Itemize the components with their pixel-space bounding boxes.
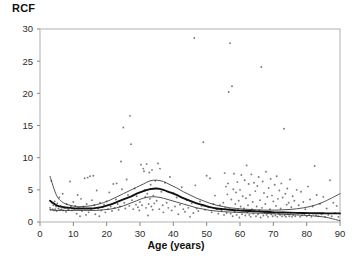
data-point [151,169,153,171]
data-point [147,215,149,217]
data-point [131,199,133,201]
data-point [248,214,250,216]
data-point [62,193,64,195]
data-point [234,203,236,205]
y-tick-label: 0 [28,216,33,227]
data-point [290,206,292,208]
data-point [247,204,249,206]
data-point [274,215,276,217]
data-point [194,184,196,186]
data-point [322,196,324,198]
data-point [132,208,134,210]
data-point [253,182,255,184]
data-point [87,177,89,179]
data-point [271,195,273,197]
data-point [310,216,312,218]
x-axis-label: Age (years) [0,239,352,251]
data-point [291,216,293,218]
data-point [314,165,316,167]
data-point [146,163,148,165]
data-point [214,195,216,197]
data-point [230,213,232,215]
data-point [193,37,195,39]
data-point [135,204,137,206]
data-point [266,196,268,198]
data-point [235,191,237,193]
data-point [86,203,88,205]
data-point [184,211,186,213]
data-point [209,177,211,179]
data-point [262,215,264,217]
data-point [262,181,264,183]
x-tick-label: 40 [168,228,179,239]
data-point [159,168,161,170]
data-point [148,203,150,205]
data-point [142,168,144,170]
data-point [254,190,256,192]
data-point [261,207,263,209]
plot-frame [40,29,340,222]
y-tick-label: 5 [28,184,33,195]
data-point [91,199,93,201]
data-point [248,183,250,185]
data-point [137,206,139,208]
data-point [77,194,79,196]
data-point [270,178,272,180]
data-point [85,214,87,216]
data-point [121,188,123,190]
data-point [285,216,287,218]
y-tick-label: 15 [22,120,33,131]
data-point [166,202,168,204]
data-point [246,164,248,166]
data-point [278,190,280,192]
data-point [256,185,258,187]
data-point [286,204,288,206]
y-tick-label: 20 [22,88,33,99]
data-point [187,207,189,209]
data-point [117,203,119,205]
data-point [241,213,243,215]
data-point [263,192,265,194]
data-point [229,42,231,44]
data-point [283,128,285,130]
data-point [275,205,277,207]
upper-band-curve [50,176,340,210]
data-point [112,183,114,185]
data-point [326,208,328,210]
data-point [206,175,208,177]
data-point [197,210,199,212]
data-point [286,188,288,190]
data-point [49,207,51,209]
data-point [158,208,160,210]
data-point [140,164,142,166]
data-point [276,216,278,218]
data-point [316,194,318,196]
data-point [143,170,145,172]
data-point [288,215,290,217]
data-point [182,208,184,210]
data-point [224,172,226,174]
data-point [223,214,225,216]
chart-figure: RCF 0510152025300102030405060708090 Age … [0,0,352,269]
data-point [300,191,302,193]
data-point [304,208,306,210]
x-tick-label: 0 [37,228,42,239]
data-point [98,215,100,217]
data-point [292,195,294,197]
data-point [226,193,228,195]
data-point [307,186,309,188]
data-point [129,115,131,117]
data-point [69,181,71,183]
data-point [257,213,259,215]
data-point [118,209,120,211]
data-point [179,204,181,206]
data-point [217,213,219,215]
data-point [211,211,213,213]
data-point [260,66,262,68]
data-point [276,175,278,177]
data-point [138,209,140,211]
data-point [228,91,230,93]
data-point [238,200,240,202]
data-point [268,187,270,189]
data-point [336,205,338,207]
